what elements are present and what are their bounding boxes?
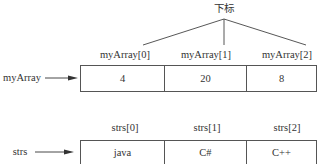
array-cell: 4 — [81, 66, 164, 91]
index-label: myArray[2] — [257, 49, 317, 61]
myarray-box: 4 20 8 — [80, 65, 317, 92]
index-label: strs[1] — [182, 122, 232, 134]
array-cell: C++ — [246, 141, 316, 164]
index-label: myArray[1] — [176, 49, 236, 61]
array-cell: 20 — [164, 66, 246, 91]
array-name-label: strs — [8, 146, 32, 158]
array-name-label: myArray — [2, 72, 42, 84]
subscript-title: 下标 — [209, 3, 239, 15]
array-diagram: 下标 myArray[0] myArray[1] myArray[2] myAr… — [0, 0, 322, 164]
index-label: strs[2] — [262, 122, 312, 134]
array-cell: C# — [164, 141, 246, 164]
array-cell: java — [81, 141, 164, 164]
strs-box: java C# C++ — [80, 140, 317, 164]
array-cell: 8 — [246, 66, 316, 91]
index-label: myArray[0] — [95, 49, 155, 61]
index-label: strs[0] — [100, 122, 150, 134]
